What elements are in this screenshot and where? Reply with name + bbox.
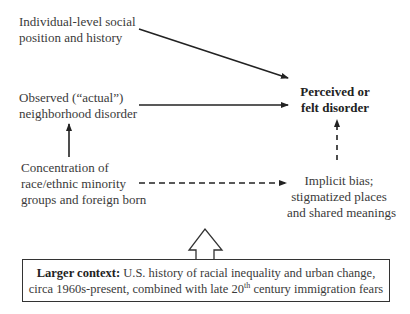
node-perceived-disorder: Perceived or felt disorder <box>300 84 370 116</box>
context-line1: Larger context: U.S. history of racial i… <box>23 265 389 281</box>
node-implicit-line2: stigmatized places <box>287 189 391 205</box>
node-individual-line2: position and history <box>19 30 136 46</box>
node-observed-line2: neighborhood disorder <box>19 106 137 122</box>
node-individual-line1: Individual-level social <box>19 14 136 30</box>
node-concentration-line3: groups and foreign born <box>21 192 146 208</box>
node-individual-position: Individual-level social position and his… <box>19 14 136 46</box>
node-observed-disorder: Observed (“actual”) neighborhood disorde… <box>19 90 137 122</box>
context-line2: circa 1960s-present, combined with late … <box>23 281 389 297</box>
context-block-arrow <box>189 229 222 259</box>
node-perceived-line1: Perceived or <box>300 84 370 100</box>
node-observed-line1: Observed (“actual”) <box>19 90 137 106</box>
context-label: Larger context: <box>37 266 120 280</box>
node-concentration-line2: race/ethnic minority <box>21 176 146 192</box>
node-perceived-line2: felt disorder <box>300 100 370 116</box>
context-line2-pre: circa 1960s-present, combined with late … <box>29 282 244 296</box>
node-concentration: Concentration of race/ethnic minority gr… <box>21 160 146 208</box>
arrow-individual-to-perceived <box>139 29 288 78</box>
larger-context-box: Larger context: U.S. history of racial i… <box>22 259 390 302</box>
node-implicit-line1: Implicit bias; <box>287 173 391 189</box>
node-implicit-line3: and shared meanings <box>287 205 391 221</box>
context-line1-text: U.S. history of racial inequality and ur… <box>120 266 375 280</box>
node-concentration-line1: Concentration of <box>21 160 146 176</box>
node-implicit-bias: Implicit bias; stigmatized places and sh… <box>287 173 391 221</box>
context-line2-post: century immigration fears <box>250 282 383 296</box>
